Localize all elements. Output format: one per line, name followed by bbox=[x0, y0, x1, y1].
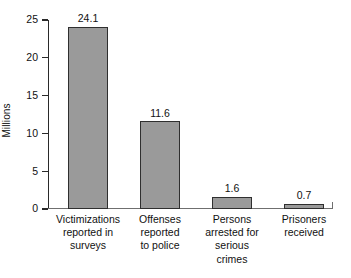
x-axis-category-label-2: Offenses reported to police bbox=[122, 213, 198, 253]
y-axis-ticklabel-10: 10 bbox=[12, 128, 38, 138]
bar-offenses-reported-to-police[interactable] bbox=[140, 121, 180, 209]
y-axis-tick-25 bbox=[42, 19, 48, 20]
x-axis-category-label-3: Persons arrested for serious crimes bbox=[194, 213, 270, 266]
category-label-4-line-2: received bbox=[266, 226, 342, 239]
bar-value-label-2: 11.6 bbox=[140, 108, 180, 119]
category-label-2-line-1: Offenses bbox=[122, 213, 198, 226]
x-axis-category-label-4: Prisoners received bbox=[266, 213, 342, 239]
category-label-1-line-2: reported in bbox=[48, 226, 128, 239]
y-axis-ticklabel-15: 15 bbox=[12, 90, 38, 100]
bar-value-label-1: 24.1 bbox=[68, 13, 108, 24]
y-axis-ticklabel-25: 25 bbox=[12, 14, 38, 24]
category-label-1-line-1: Victimizations bbox=[48, 213, 128, 226]
y-axis-tick-5 bbox=[42, 171, 48, 172]
y-axis-title: Millions bbox=[1, 81, 12, 161]
y-axis-ticklabel-0-wrap: 0 bbox=[11, 203, 38, 213]
y-axis-line bbox=[48, 20, 49, 209]
bar-value-label-3: 1.6 bbox=[212, 183, 252, 194]
y-axis-ticklabel-5-wrap: 5 bbox=[11, 166, 38, 176]
y-axis-ticklabel-25-wrap: 25 bbox=[11, 14, 38, 24]
y-axis-ticklabel-10-wrap: 10 bbox=[11, 128, 38, 138]
y-axis-ticklabel-5: 5 bbox=[12, 166, 38, 176]
y-axis-ticklabel-15-wrap: 15 bbox=[11, 90, 38, 100]
x-axis-end-tick bbox=[332, 202, 333, 209]
category-label-2-line-2: reported bbox=[122, 226, 198, 239]
category-label-3-line-4: crimes bbox=[194, 253, 270, 266]
y-axis-ticklabel-20: 20 bbox=[12, 52, 38, 62]
bar-prisoners-received[interactable] bbox=[284, 204, 324, 209]
y-axis-ticklabel-20-wrap: 20 bbox=[11, 52, 38, 62]
category-label-3-line-1: Persons bbox=[194, 213, 270, 226]
y-axis-tick-20 bbox=[42, 57, 48, 58]
y-axis-tick-15 bbox=[42, 95, 48, 96]
x-axis-category-label-1: Victimizations reported in surveys bbox=[48, 213, 128, 253]
category-label-4-line-1: Prisoners bbox=[266, 213, 342, 226]
category-label-2-line-3: to police bbox=[122, 239, 198, 252]
bar-victimizations-reported-in-surveys[interactable] bbox=[68, 27, 108, 209]
category-label-1-line-3: surveys bbox=[48, 239, 128, 252]
category-label-3-line-3: serious bbox=[194, 239, 270, 252]
bar-value-label-4: 0.7 bbox=[284, 190, 324, 201]
category-label-3-line-2: arrested for bbox=[194, 226, 270, 239]
bar-persons-arrested-for-serious-crimes[interactable] bbox=[212, 197, 252, 209]
bar-chart: Millions 25 20 15 10 5 0 24.1 11.6 1.6 0… bbox=[0, 0, 351, 278]
y-axis-ticklabel-0: 0 bbox=[12, 203, 38, 213]
y-axis-tick-10 bbox=[42, 133, 48, 134]
